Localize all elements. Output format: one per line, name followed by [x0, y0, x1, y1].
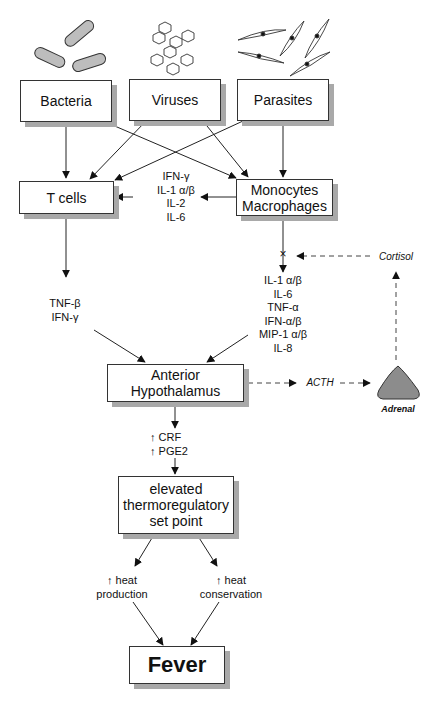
virus-icon — [151, 22, 194, 75]
heat-production-label: ↑ heat production — [92, 574, 152, 601]
monocytes-macrophages-label: Monocytes Macrophages — [242, 182, 327, 214]
set-point-box: elevated thermoregulatory set point — [118, 476, 234, 534]
monocytes-macrophages-box: Monocytes Macrophages — [236, 179, 333, 216]
set-point-label: elevated thermoregulatory set point — [123, 481, 229, 529]
heat-conservation-label: ↑ heat conservation — [196, 574, 266, 601]
cortisol-label: Cortisol — [374, 250, 418, 264]
adrenal-gland-icon — [378, 366, 420, 399]
arrow-viruses-tcells — [90, 121, 146, 179]
t-cells-box: T cells — [19, 181, 114, 214]
cytokines-monocytes-to-tcells: IFN-γ IL-1 α/β IL-2 IL-6 — [146, 170, 206, 224]
adrenal-label: Adrenal — [378, 403, 418, 417]
arrow-heat-conservation-fever — [191, 602, 219, 645]
inhibition-mark: × — [278, 248, 288, 262]
arrow-heat-production-fever — [133, 602, 163, 645]
cytokines-tcells: TNF-β IFN-γ — [40, 297, 90, 324]
parasites-box: Parasites — [237, 79, 329, 121]
parasite-icon — [238, 19, 330, 76]
bacteria-box: Bacteria — [20, 80, 112, 122]
acth-label: ACTH — [302, 376, 338, 390]
anterior-hypothalamus-box: Anterior Hypothalamus — [107, 364, 244, 402]
arrow-setpoint-heat-conservation — [196, 533, 217, 566]
anterior-hypothalamus-label: Anterior Hypothalamus — [131, 367, 221, 399]
arrow-tcell-cytokines-hypothalamus — [94, 330, 145, 362]
fever-box: Fever — [129, 646, 225, 684]
hypothalamic-mediators: ↑ CRF ↑ PGE2 — [150, 431, 200, 458]
arrow-setpoint-heat-production — [135, 533, 155, 566]
arrow-mono-cytokines-hypothalamus — [207, 335, 248, 362]
viruses-box: Viruses — [129, 79, 221, 121]
bacteria-label: Bacteria — [40, 93, 91, 109]
parasites-label: Parasites — [254, 92, 312, 108]
cytokines-monocytes: IL-1 α/β IL-6 TNF-α IFN-α/β MIP-1 α/β IL… — [248, 274, 318, 355]
fever-label: Fever — [148, 657, 207, 673]
t-cells-label: T cells — [46, 190, 86, 206]
bacteria-icon — [33, 18, 107, 73]
viruses-label: Viruses — [152, 92, 198, 108]
